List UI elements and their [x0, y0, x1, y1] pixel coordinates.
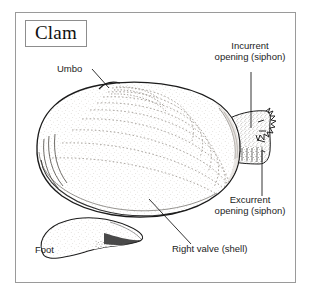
label-excurrent-siphon: Excurrent opening (siphon) — [196, 194, 304, 216]
foot-shape — [41, 218, 146, 259]
label-right-valve: Right valve (shell) — [172, 243, 248, 254]
label-foot: Foot — [35, 244, 54, 255]
title-box: Clam — [25, 20, 87, 47]
clam-diagram: Clam Umbo Incurrent opening (siphon) Exc… — [0, 0, 314, 296]
label-incurrent-siphon: Incurrent opening (siphon) — [196, 40, 304, 62]
label-umbo: Umbo — [57, 63, 82, 74]
page-title: Clam — [35, 22, 77, 43]
